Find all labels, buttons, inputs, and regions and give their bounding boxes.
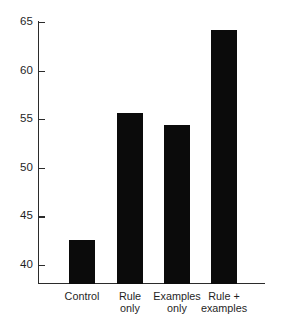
y-tick-label: 40: [7, 259, 33, 271]
y-tick-mark: [38, 168, 45, 169]
bar-chart: 404550556065 ControlRule onlyExamples on…: [0, 0, 281, 328]
x-axis-label: Control: [52, 290, 112, 302]
x-axis-label: Rule + examples: [189, 290, 259, 315]
y-tick-label: 65: [7, 16, 33, 28]
y-axis-line: [38, 21, 39, 284]
y-tick-mark: [38, 119, 45, 120]
bar: [117, 113, 143, 284]
y-tick-label: 45: [7, 210, 33, 222]
y-tick-mark: [38, 216, 45, 217]
y-tick-label: 60: [7, 65, 33, 77]
y-tick-mark: [38, 265, 45, 266]
bar: [211, 30, 237, 284]
y-tick-mark: [38, 22, 45, 23]
bar: [69, 240, 95, 284]
y-tick-mark: [38, 71, 45, 72]
y-tick-label: 55: [7, 113, 33, 125]
y-tick-label: 50: [7, 162, 33, 174]
bar: [164, 125, 190, 284]
